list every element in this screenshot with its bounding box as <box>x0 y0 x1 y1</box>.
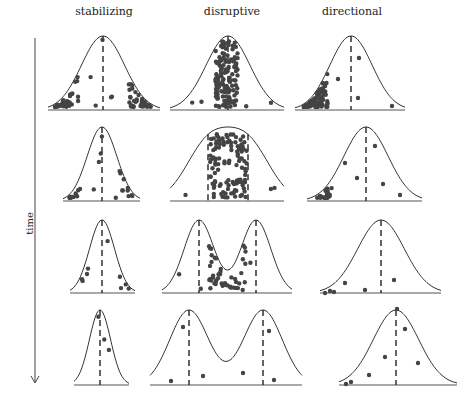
time-axis-arrow <box>31 38 39 383</box>
curve-stabilizing-row-4 <box>74 310 129 385</box>
curve-disruptive-row-4 <box>150 310 302 385</box>
selection-diagram <box>0 0 474 410</box>
curve-directional-row-1 <box>295 36 405 110</box>
curve-directional-row-2 <box>307 127 422 201</box>
curve-disruptive-row-1 <box>170 36 284 110</box>
curve-stabilizing-row-2 <box>63 127 140 201</box>
curve-disruptive-row-3 <box>162 220 292 293</box>
curve-stabilizing-row-3 <box>70 220 135 293</box>
curve-directional-row-4 <box>339 307 457 386</box>
curve-directional-row-3 <box>320 220 441 295</box>
curve-disruptive-row-2 <box>170 127 284 201</box>
curve-stabilizing-row-1 <box>48 36 160 110</box>
